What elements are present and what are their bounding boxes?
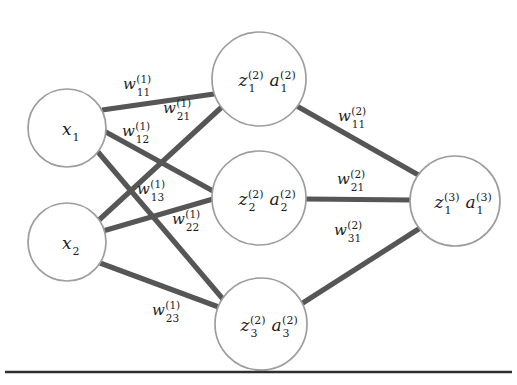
weight-label-w31-2: w(2)31: [334, 223, 347, 238]
node-label-h2: z(2)2a(2)2: [239, 191, 280, 208]
edge-h2-to-o1: [306, 199, 412, 200]
node-label-x2: x2: [62, 235, 72, 252]
weight-label-w13-1: w(1)13: [137, 182, 150, 197]
weight-label-w12-1: w(1)12: [122, 124, 135, 139]
edge-x1-to-h1: [102, 93, 221, 110]
weight-label-w21-2: w(2)21: [337, 172, 350, 187]
neural-network-figure: x1x2z(2)1a(2)1z(2)2a(2)2z(2)3a(2)3z(3)1a…: [0, 0, 517, 385]
node-label-h1: z(2)1a(2)1: [239, 72, 280, 89]
weight-label-w23-1: w(1)23: [152, 303, 165, 318]
weight-label-w11-1: w(1)11: [123, 77, 136, 92]
node-label-h3: z(2)3a(2)3: [241, 317, 282, 334]
weight-label-w22-1: w(1)22: [172, 212, 185, 227]
node-label-o1: z(3)1a(3)1: [435, 194, 476, 211]
edge-h3-to-o1: [298, 223, 428, 306]
node-label-x1: x1: [62, 121, 72, 138]
weight-label-w21-1: w(1)21: [163, 101, 176, 116]
weight-label-w11-2: w(2)11: [338, 109, 351, 124]
